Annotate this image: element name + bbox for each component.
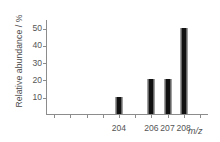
- x-tick-mark: [119, 114, 120, 118]
- bar: [115, 97, 122, 114]
- y-axis-line: [46, 20, 47, 115]
- x-tick-mark: [135, 114, 136, 118]
- y-tick-mark: [43, 80, 47, 81]
- y-tick-mark: [43, 98, 47, 99]
- bar: [148, 79, 155, 114]
- bar: [180, 28, 187, 114]
- x-tick-mark: [54, 114, 55, 118]
- y-tick-mark: [43, 29, 47, 30]
- x-tick-label: 207: [160, 123, 174, 133]
- bar: [164, 79, 171, 114]
- x-tick-label: 206: [144, 123, 158, 133]
- y-tick-label: 50: [32, 23, 42, 33]
- plot-area: 1020304050 204206207208: [46, 20, 208, 115]
- x-tick-mark: [151, 114, 152, 118]
- x-tick-mark: [87, 114, 88, 118]
- x-tick-mark: [103, 114, 104, 118]
- y-tick-label: 30: [32, 58, 42, 68]
- y-tick-label: 40: [32, 40, 42, 50]
- x-tick-label: 204: [112, 123, 126, 133]
- y-tick-mark: [43, 63, 47, 64]
- x-tick-mark: [70, 114, 71, 118]
- y-tick-label: 10: [32, 92, 42, 102]
- y-tick-mark: [43, 46, 47, 47]
- x-tick-mark: [168, 114, 169, 118]
- x-axis-title: m/z: [188, 126, 203, 136]
- x-tick-mark: [200, 114, 201, 118]
- x-tick-mark: [184, 114, 185, 118]
- y-tick-label: 20: [32, 75, 42, 85]
- mass-spectrum-chart: Relative abundance / % 1020304050 204206…: [0, 0, 220, 142]
- y-axis-title: Relative abundance / %: [14, 2, 24, 120]
